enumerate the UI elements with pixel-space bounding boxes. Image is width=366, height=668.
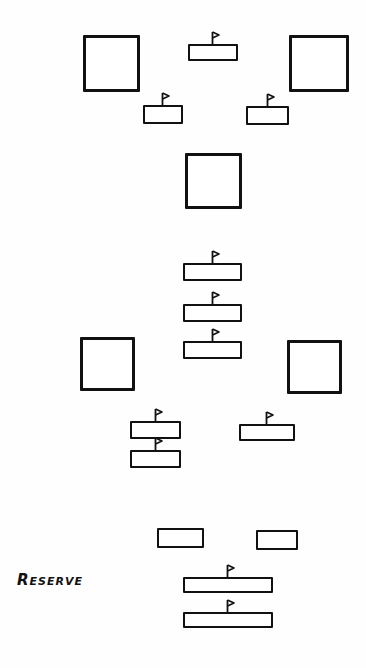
flag-icon	[154, 408, 164, 422]
square-top-left	[83, 35, 140, 92]
bar-upper-right	[246, 106, 289, 125]
diagram-canvas: Reserve	[0, 0, 366, 668]
bar-reserve-2	[183, 612, 273, 628]
square-top-right	[289, 35, 349, 92]
flag-icon	[211, 328, 221, 342]
square-lower-left	[80, 337, 135, 391]
reserve-label: Reserve	[17, 571, 83, 589]
square-center	[185, 153, 242, 209]
bar-lower-right	[239, 424, 295, 441]
flag-icon	[154, 437, 164, 451]
bar-top-center	[188, 44, 238, 61]
bar-plain-left	[157, 528, 204, 548]
bar-stack-1	[183, 263, 242, 281]
flag-icon	[265, 411, 275, 425]
flag-icon	[226, 564, 236, 578]
bar-reserve-1	[183, 577, 273, 593]
flag-icon	[211, 31, 221, 45]
square-lower-right	[287, 340, 342, 394]
flag-icon	[266, 93, 276, 107]
flag-icon	[211, 291, 221, 305]
bar-lower-left-2	[130, 450, 181, 468]
bar-upper-left	[143, 105, 183, 124]
flag-icon	[226, 599, 236, 613]
bar-plain-right	[256, 530, 298, 550]
flag-icon	[211, 250, 221, 264]
bar-stack-3	[183, 341, 242, 359]
bar-stack-2	[183, 304, 242, 322]
flag-icon	[161, 92, 171, 106]
